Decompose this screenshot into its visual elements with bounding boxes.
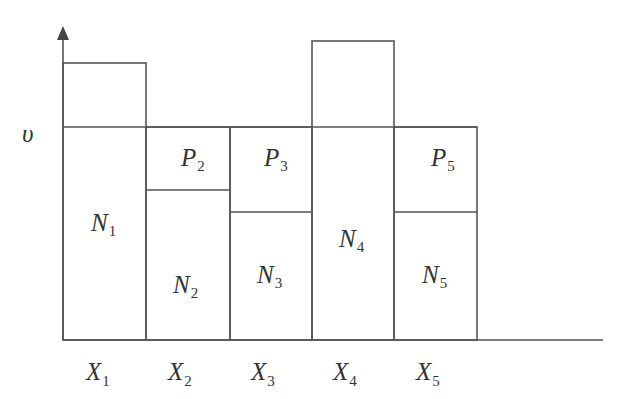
bar-4 (312, 41, 394, 340)
bar-label-2: N2 (172, 271, 198, 301)
arrow-up-icon (57, 26, 69, 40)
bar-label-1: N1 (90, 209, 116, 239)
x-label-2: X2 (167, 358, 192, 389)
diagram-canvas: υ P2 P3 P5 N1 N2 N3 N4 N5 X1 X2 X3 X4 X5 (0, 0, 619, 399)
x-label-5: X5 (415, 358, 440, 389)
level-label: υ (22, 120, 33, 147)
bar-label-4: N4 (338, 225, 365, 255)
x-label-3: X3 (250, 358, 275, 389)
bar-label-5: N5 (421, 261, 447, 291)
top-label-5: P5 (430, 144, 455, 174)
x-label-4: X4 (332, 358, 357, 389)
x-label-1: X1 (85, 358, 110, 389)
top-label-2: P2 (180, 144, 205, 174)
bar-label-3: N3 (256, 261, 282, 291)
bar-1 (63, 63, 146, 340)
top-label-3: P3 (263, 144, 288, 174)
